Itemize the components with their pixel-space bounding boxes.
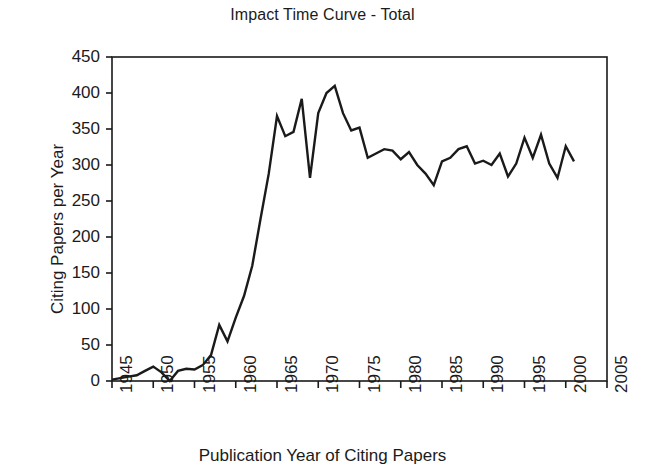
- x-axis-tick-marks: [112, 381, 607, 388]
- plot-frame-rect: [112, 57, 607, 381]
- plot-area: [0, 0, 645, 472]
- axes-frame: [112, 57, 607, 381]
- y-axis-tick-marks: [106, 57, 112, 381]
- chart-figure: Impact Time Curve - Total Citing Papers …: [0, 0, 645, 472]
- data-series-line: [112, 86, 574, 381]
